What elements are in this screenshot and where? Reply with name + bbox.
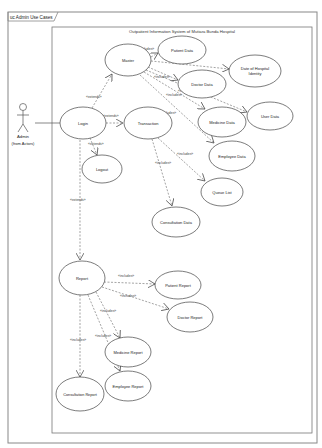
use-case-logout[interactable]: Logout	[82, 155, 122, 183]
svg-text:«includes»: «includes»	[166, 93, 182, 97]
svg-text:«extends»: «extends»	[70, 198, 86, 202]
use-case-patient-data[interactable]: Patient Data	[158, 36, 206, 64]
svg-text:Report: Report	[76, 276, 89, 281]
svg-text:«includes»: «includes»	[100, 309, 116, 313]
actor-package: (from Actors)	[12, 141, 36, 146]
svg-text:Logout: Logout	[96, 167, 109, 172]
use-case-consultation-report[interactable]: Consultation Report	[56, 377, 104, 411]
frame-tab-label: uc Admin Use Cases	[10, 15, 53, 20]
svg-text:Identity: Identity	[249, 71, 262, 76]
svg-text:Doctor Data: Doctor Data	[191, 82, 213, 87]
use-case-transaction[interactable]: Transaction	[124, 107, 172, 139]
use-case-employee-data[interactable]: Employee Data	[209, 141, 255, 171]
svg-text:Doctor Report: Doctor Report	[178, 315, 204, 320]
actor-admin[interactable]: Admin (from Actors)	[12, 104, 36, 147]
svg-text:«includes»: «includes»	[70, 338, 86, 342]
use-case-patient-report[interactable]: Patient Report	[155, 271, 201, 299]
svg-text:Employee Report: Employee Report	[113, 384, 145, 389]
use-case-report[interactable]: Report	[59, 261, 105, 295]
svg-text:Consultation Report: Consultation Report	[63, 393, 98, 397]
actor-head-icon	[20, 104, 27, 111]
svg-text:«includes»: «includes»	[177, 152, 193, 156]
svg-text:«extends»: «extends»	[103, 114, 119, 118]
svg-text:Medicine Report: Medicine Report	[113, 350, 143, 355]
svg-text:User Data: User Data	[261, 114, 280, 119]
svg-text:Patient Data: Patient Data	[171, 48, 194, 53]
use-case-diagram: uc Admin Use Cases Outpatient Informatio…	[0, 0, 322, 448]
svg-text:Master: Master	[122, 58, 135, 63]
use-case-user-data[interactable]: User Data	[247, 102, 293, 130]
svg-text:«includes»: «includes»	[120, 294, 136, 298]
use-case-consultation-data[interactable]: Consultation Data	[152, 207, 200, 237]
svg-text:Medicine Data: Medicine Data	[209, 120, 235, 125]
svg-text:Transaction: Transaction	[138, 121, 159, 126]
use-case-medicine-data[interactable]: Medicine Data	[198, 107, 246, 137]
use-case-employee-report[interactable]: Employee Report	[105, 371, 151, 401]
svg-text:«includes»: «includes»	[155, 161, 171, 165]
use-case-login[interactable]: Login	[60, 107, 106, 139]
use-case-queue-list[interactable]: Queue List	[201, 178, 243, 206]
svg-text:Employee Data: Employee Data	[218, 154, 246, 159]
svg-text:«includes»: «includes»	[118, 274, 134, 278]
use-case-doctor-data[interactable]: Doctor Data	[178, 70, 226, 98]
svg-text:Login: Login	[78, 121, 88, 126]
system-title: Outpatient Information System of Mutiara…	[129, 29, 235, 34]
svg-text:Queue List: Queue List	[212, 190, 232, 195]
svg-text:«extends»: «extends»	[86, 95, 102, 99]
svg-text:«extends»: «extends»	[88, 142, 104, 146]
use-case-master[interactable]: Master	[105, 44, 151, 76]
use-case-doctor-report[interactable]: Doctor Report	[167, 302, 213, 332]
svg-text:Patient Report: Patient Report	[165, 283, 191, 288]
use-case-date-of-hospital-identity[interactable]: Date of Hospital Identity	[229, 55, 281, 87]
svg-text:Consultation Data: Consultation Data	[160, 220, 193, 225]
svg-text:«includes»: «includes»	[95, 334, 111, 338]
use-case-medicine-report[interactable]: Medicine Report	[105, 337, 151, 367]
svg-text:«includes»: «includes»	[154, 75, 170, 79]
actor-name: Admin	[17, 134, 30, 139]
